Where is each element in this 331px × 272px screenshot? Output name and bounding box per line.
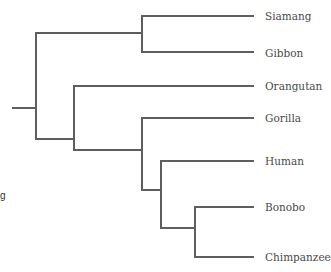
phylogenetic-tree	[0, 0, 331, 272]
leaf-label-chimpanzee: Chimpanzee	[265, 251, 331, 263]
leaf-label-gibbon: Gibbon	[265, 47, 303, 59]
leaf-label-orangutan: Orangutan	[265, 80, 322, 92]
leaf-label-human: Human	[265, 155, 304, 167]
leaf-label-siamang: Siamang	[265, 10, 312, 22]
leaf-label-bonobo: Bonobo	[265, 201, 305, 213]
cropped-text-fragment: g	[0, 190, 6, 201]
leaf-label-gorilla: Gorilla	[265, 112, 301, 124]
